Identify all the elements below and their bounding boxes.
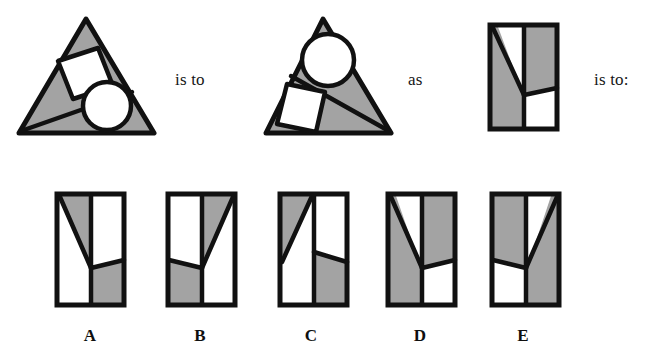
inner-circle <box>83 82 131 130</box>
inner-circle <box>302 34 354 86</box>
connector-as: as <box>408 70 423 90</box>
option-label-d: D <box>408 326 432 346</box>
stem-figure-b <box>263 14 408 139</box>
region-left-gray <box>492 194 525 269</box>
option-label-c: C <box>299 326 323 346</box>
option-label-a: A <box>78 326 102 346</box>
puzzle-canvas: is to as <box>0 0 656 359</box>
option-label-b: B <box>188 326 212 346</box>
option-b[interactable] <box>165 191 238 308</box>
connector-is-to-1: is to <box>175 70 205 90</box>
option-e[interactable] <box>489 191 562 308</box>
region-right-gray <box>525 25 557 96</box>
stem-figure-c <box>487 22 560 132</box>
inner-square <box>277 84 325 132</box>
option-a[interactable] <box>54 191 127 308</box>
option-d[interactable] <box>385 191 458 308</box>
region-right-gray <box>423 195 455 269</box>
option-label-e: E <box>511 326 535 346</box>
option-c[interactable] <box>277 191 350 308</box>
connector-is-to-2: is to: <box>594 70 629 90</box>
stem-figure-a <box>14 14 159 139</box>
